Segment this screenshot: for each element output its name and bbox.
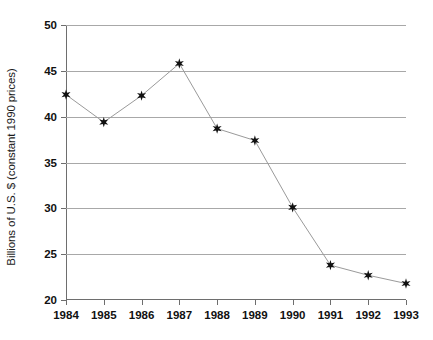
x-tick-label: 1984: [53, 309, 79, 321]
plot-area: 20253035404550 1984198519861987198819891…: [66, 25, 406, 300]
x-tick-mark: [293, 300, 294, 305]
x-tick-mark: [368, 300, 369, 305]
x-tick-label: 1987: [167, 309, 193, 321]
x-tick-mark: [406, 300, 407, 305]
chart-container: Billions of U.S. $ (constant 1990 prices…: [0, 0, 433, 340]
x-tick-label: 1992: [355, 309, 381, 321]
data-point-marker: [288, 202, 297, 212]
y-tick-label: 50: [44, 19, 57, 31]
x-tick-label: 1993: [393, 309, 419, 321]
x-tick-label: 1986: [129, 309, 155, 321]
y-tick-label: 25: [44, 248, 57, 260]
y-tick-label: 40: [44, 111, 57, 123]
x-tick-label: 1989: [242, 309, 268, 321]
x-tick-mark: [217, 300, 218, 305]
x-tick-label: 1991: [318, 309, 344, 321]
data-point-marker: [137, 90, 146, 100]
data-point-marker: [175, 58, 184, 68]
data-point-marker: [326, 260, 335, 270]
x-tick-mark: [179, 300, 180, 305]
x-tick-label: 1990: [280, 309, 306, 321]
x-tick-mark: [330, 300, 331, 305]
x-tick-mark: [255, 300, 256, 305]
y-axis-title-label: Billions of U.S. $ (constant 1990 prices…: [5, 68, 17, 271]
data-series: [66, 25, 406, 300]
y-axis-title: Billions of U.S. $ (constant 1990 prices…: [0, 0, 22, 340]
data-point-marker: [402, 278, 411, 288]
x-tick-label: 1985: [91, 309, 117, 321]
y-tick-label: 45: [44, 65, 57, 77]
data-point-marker: [62, 89, 71, 99]
y-tick-label: 30: [44, 202, 57, 214]
x-tick-mark: [104, 300, 105, 305]
data-point-marker: [364, 270, 373, 280]
x-tick-mark: [66, 300, 67, 305]
y-tick-label: 20: [44, 294, 57, 306]
data-point-marker: [250, 135, 259, 145]
data-point-marker: [213, 123, 222, 133]
x-tick-label: 1988: [204, 309, 230, 321]
x-tick-mark: [142, 300, 143, 305]
series-line: [66, 64, 406, 284]
data-point-marker: [99, 117, 108, 127]
y-tick-label: 35: [44, 157, 57, 169]
